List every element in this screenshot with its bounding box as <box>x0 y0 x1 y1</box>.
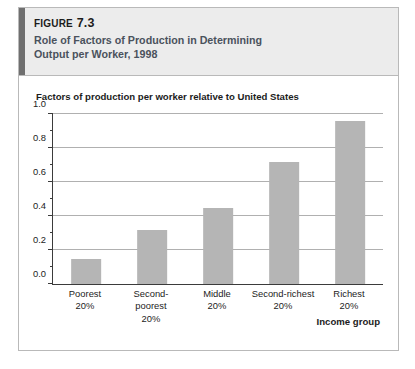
bar <box>269 162 299 284</box>
bar-slot <box>251 114 317 284</box>
bar-slot <box>53 114 119 284</box>
figure-number-value: 7.3 <box>77 16 95 30</box>
chart-subtitle: Factors of production per worker relativ… <box>36 91 299 102</box>
bar-slot <box>119 114 185 284</box>
x-axis-label-name: Middle <box>184 288 250 300</box>
bar <box>71 259 101 285</box>
chart-body: Factors of production per worker relativ… <box>19 76 398 350</box>
x-axis-label-name: Poorest <box>52 288 118 300</box>
y-tick-label: 1.0 <box>33 98 46 109</box>
figure-container: Figure 7.3 Role of Factors of Production… <box>18 7 399 351</box>
x-axis-label: Middle20% <box>184 288 250 325</box>
x-axis-label: Poorest20% <box>52 288 118 325</box>
figure-title-line1: Role of Factors of Production in Determi… <box>34 34 392 48</box>
bar-slot <box>185 114 251 284</box>
bars-layer <box>53 114 383 284</box>
header-accent-bar <box>19 8 25 75</box>
x-axis-label-share: 20% <box>118 313 184 325</box>
y-tick-label: 0.2 <box>33 234 46 245</box>
y-tick-label: 0.4 <box>33 200 46 211</box>
plot-area: 0.00.20.40.60.81.0 <box>52 114 383 285</box>
x-axis-label-name: Richest <box>316 288 382 300</box>
figure-number: Figure 7.3 <box>34 15 392 31</box>
plot-wrapper: 0.00.20.40.60.81.0 <box>52 114 382 284</box>
y-tick-label: 0.0 <box>33 268 46 279</box>
x-axis-label-share: 20% <box>316 300 382 312</box>
figure-title-line2: Output per Worker, 1998 <box>34 48 392 62</box>
x-axis-label-name: Second-richest <box>250 288 316 300</box>
y-tick-label: 0.8 <box>33 132 46 143</box>
x-axis-label-share: 20% <box>250 300 316 312</box>
x-axis-label-share: 20% <box>52 300 118 312</box>
y-tick-label: 0.6 <box>33 166 46 177</box>
x-axis-label-name: Second-poorest <box>118 288 184 313</box>
x-axis-title: Income group <box>317 316 380 327</box>
bar <box>137 230 167 284</box>
x-axis-label-share: 20% <box>184 300 250 312</box>
bar <box>203 208 233 285</box>
x-axis-label: Second-poorest20% <box>118 288 184 325</box>
bar-slot <box>317 114 383 284</box>
x-axis-label: Second-richest20% <box>250 288 316 325</box>
figure-title: Role of Factors of Production in Determi… <box>34 34 392 61</box>
figure-header-text: Figure 7.3 Role of Factors of Production… <box>34 15 392 61</box>
figure-header: Figure 7.3 Role of Factors of Production… <box>19 8 398 76</box>
figure-number-prefix: Figure <box>34 14 73 30</box>
bar <box>335 121 365 284</box>
